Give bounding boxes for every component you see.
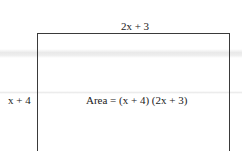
area-label: Area = (x + 4) (2x + 3) xyxy=(86,94,187,106)
rectangle xyxy=(37,33,230,151)
height-label: x + 4 xyxy=(8,94,31,106)
width-label: 2x + 3 xyxy=(120,20,150,32)
